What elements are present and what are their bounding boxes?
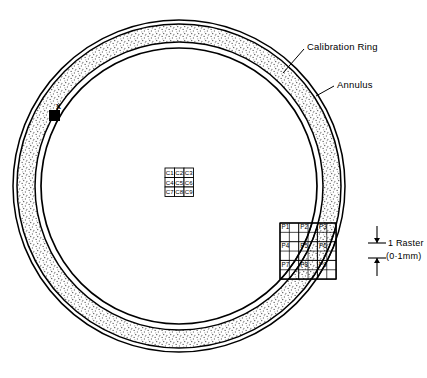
ring-diagram-svg: C1C2C3C4C5C6C7C8C9 P1P2P3P4P5P6P7P8P9 xyxy=(0,0,427,378)
peripheral-cell-label: P1 xyxy=(282,223,290,230)
reference-marker-square xyxy=(49,110,60,121)
centre-cell-label: C5 xyxy=(175,179,183,186)
annulus-label: Annulus xyxy=(337,79,373,90)
peripheral-cell-label: P9 xyxy=(319,261,327,268)
peripheral-cell-label: P5 xyxy=(300,242,308,249)
centre-cell-label: C2 xyxy=(175,169,183,176)
centre-cell-label: C3 xyxy=(185,169,193,176)
peripheral-cell-label: P3 xyxy=(319,223,327,230)
peripheral-cell-label: P4 xyxy=(282,242,290,249)
centre-cell-label: C1 xyxy=(166,169,174,176)
raster-scale-label-line2: (0·1mm) xyxy=(386,251,421,261)
reference-marker-label: x xyxy=(56,101,61,111)
centre-cell-label: C9 xyxy=(185,188,193,195)
raster-scale-label-line1: 1 Raster xyxy=(388,238,424,248)
calibration-ring-label: Calibration Ring xyxy=(307,41,378,52)
peripheral-cell-label: P6 xyxy=(319,242,327,249)
peripheral-cell-label: P2 xyxy=(300,223,308,230)
centre-cell-label: C4 xyxy=(166,179,174,186)
centre-cell-label: C6 xyxy=(185,179,193,186)
peripheral-cell-label: P8 xyxy=(300,261,308,268)
peripheral-cell-label: P7 xyxy=(282,261,290,268)
centre-cell-label: C7 xyxy=(166,188,174,195)
centre-cell-label: C8 xyxy=(175,188,183,195)
centre-calibration-grid: C1C2C3C4C5C6C7C8C9 xyxy=(165,168,194,197)
figure-canvas: C1C2C3C4C5C6C7C8C9 P1P2P3P4P5P6P7P8P9 Ca… xyxy=(0,0,427,378)
annulus-band xyxy=(0,0,427,378)
